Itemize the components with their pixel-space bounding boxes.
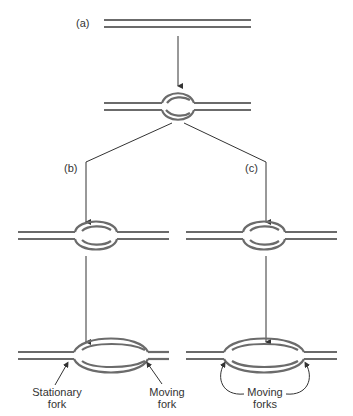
- label-a: (a): [76, 17, 89, 29]
- label-moving-fork-line2: fork: [146, 398, 188, 410]
- branch-lines: [86, 123, 266, 222]
- label-moving-fork: Moving fork: [146, 386, 188, 410]
- replication-bubble-a: [104, 93, 251, 120]
- replication-bubble-c-large: [186, 339, 337, 373]
- replication-diagram: [0, 0, 353, 416]
- replication-bubble-b-large: [18, 339, 169, 373]
- label-moving-forks-line1: Moving: [244, 386, 286, 398]
- label-stationary-fork: Stationary fork: [30, 386, 84, 410]
- dna-duplex-a: [104, 20, 251, 27]
- label-b: (b): [64, 162, 77, 174]
- replication-bubble-b-small: [18, 222, 169, 250]
- label-moving-forks-line2: forks: [244, 398, 286, 410]
- label-moving-fork-line1: Moving: [146, 386, 188, 398]
- label-moving-forks: Moving forks: [244, 386, 286, 410]
- replication-bubble-c-small: [186, 222, 337, 250]
- label-stationary-fork-line1: Stationary: [30, 386, 84, 398]
- label-c: (c): [245, 162, 258, 174]
- label-stationary-fork-line2: fork: [30, 398, 84, 410]
